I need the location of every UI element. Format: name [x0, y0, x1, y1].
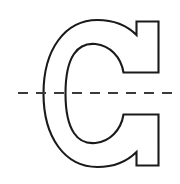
figure-canvas	[0, 0, 180, 184]
letter-c-figure-svg	[0, 0, 180, 184]
